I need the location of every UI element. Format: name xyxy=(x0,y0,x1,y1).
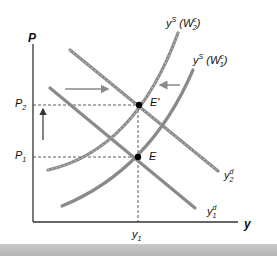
equilibrium-point-new xyxy=(136,102,142,108)
y1-label: y1 xyxy=(132,229,141,242)
output-axis-label: y xyxy=(244,218,251,230)
demand-curve-old-label: yd1 xyxy=(207,204,216,219)
supply-curve-old-label: yS (Wc1) xyxy=(193,53,227,68)
diagram-canvas xyxy=(0,0,277,256)
supply-curve-new-label: yS (Wc2) xyxy=(166,16,200,31)
supply-curve-old xyxy=(62,70,193,206)
p1-label: P1 xyxy=(15,150,26,163)
equilibrium-label-old: E xyxy=(149,151,156,162)
equilibrium-label-new: E' xyxy=(150,97,159,108)
p2-label: P2 xyxy=(15,98,26,111)
price-axis-label: P xyxy=(28,32,36,44)
diagram-panel: P y P2 P1 y1 E' E yS (Wc2) yS (Wc1) yd2 … xyxy=(0,0,277,256)
equilibrium-point-old xyxy=(135,154,141,160)
demand-curve-new-label: yd2 xyxy=(224,168,233,183)
